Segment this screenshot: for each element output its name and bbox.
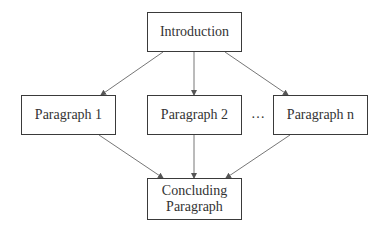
node-paragraph-1-label: Paragraph 1 bbox=[35, 107, 102, 123]
node-conclusion-line1: Concluding bbox=[162, 183, 227, 199]
edge-p1-to-conclusion bbox=[99, 135, 163, 178]
edge-intro-to-pn bbox=[225, 52, 288, 95]
ellipsis-marker: … bbox=[251, 106, 265, 122]
node-conclusion-line2: Paragraph bbox=[166, 199, 223, 215]
edge-intro-to-p1 bbox=[101, 52, 163, 95]
node-paragraph-n: Paragraph n bbox=[273, 95, 368, 135]
node-introduction-label: Introduction bbox=[160, 24, 229, 40]
node-paragraph-2: Paragraph 2 bbox=[147, 95, 242, 135]
essay-structure-diagram: Introduction Paragraph 1 Paragraph 2 … P… bbox=[0, 0, 386, 230]
node-concluding-paragraph: Concluding Paragraph bbox=[147, 178, 242, 220]
edge-pn-to-conclusion bbox=[226, 135, 290, 178]
node-introduction: Introduction bbox=[147, 12, 242, 52]
node-paragraph-2-label: Paragraph 2 bbox=[161, 107, 228, 123]
node-paragraph-n-label: Paragraph n bbox=[287, 107, 354, 123]
node-paragraph-1: Paragraph 1 bbox=[21, 95, 116, 135]
